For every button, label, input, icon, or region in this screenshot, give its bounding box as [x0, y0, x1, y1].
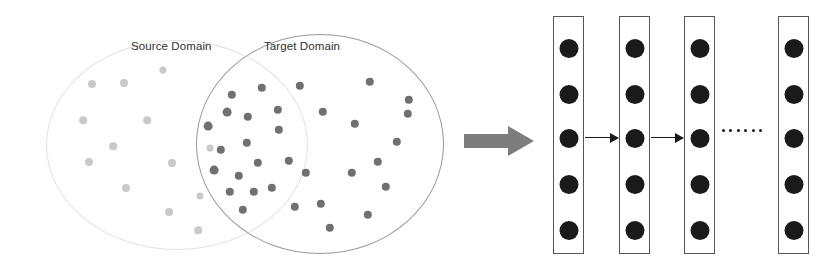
- arrow-tip: [675, 133, 684, 143]
- network-node: [625, 85, 644, 104]
- network-node: [784, 39, 803, 58]
- network-node: [784, 85, 803, 104]
- layer-connection-arrow-icon: [651, 133, 683, 143]
- network-node: [690, 175, 709, 194]
- network-node: [690, 39, 709, 58]
- network-layer-n: [778, 16, 809, 254]
- network-node: [690, 85, 709, 104]
- layer-ellipsis-icon: [722, 129, 762, 132]
- network-node: [559, 39, 578, 58]
- network-node: [559, 175, 578, 194]
- network-node: [625, 129, 644, 148]
- network-node: [559, 85, 578, 104]
- network-node: [625, 175, 644, 194]
- network-node: [690, 129, 709, 148]
- network-layer-2: [619, 16, 650, 254]
- layered-network-diagram: [0, 0, 834, 269]
- network-layer-1: [553, 16, 584, 254]
- network-node: [625, 221, 644, 240]
- figure-canvas: Source Domain Target Domain: [0, 0, 834, 269]
- network-node: [690, 221, 709, 240]
- network-node: [784, 221, 803, 240]
- arrow-tip: [610, 133, 619, 143]
- network-node: [625, 39, 644, 58]
- network-layer-3: [684, 16, 715, 254]
- layer-connection-arrow-icon: [585, 133, 618, 143]
- network-node: [784, 129, 803, 148]
- network-node: [559, 221, 578, 240]
- network-node: [559, 129, 578, 148]
- network-node: [784, 175, 803, 194]
